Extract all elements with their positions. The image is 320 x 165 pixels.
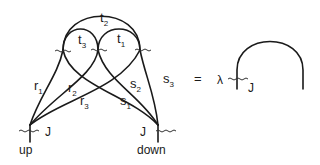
edge-s2: [98, 50, 158, 125]
diagram-canvas: t2 t3 t1 r1 r2 r3 s1 s2 s3 J J up down =…: [0, 0, 320, 165]
label-t1: t1: [117, 31, 126, 49]
node-label-up: up: [19, 143, 33, 157]
label-current-up: J: [45, 125, 51, 139]
label-s2: s2: [130, 76, 142, 94]
label-r1: r1: [34, 78, 43, 96]
label-s3: s3: [163, 71, 175, 89]
label-t2: t2: [100, 10, 109, 28]
right-diagram: λ J: [217, 42, 303, 96]
label-s1: s1: [120, 93, 132, 111]
label-current: J: [248, 81, 254, 95]
wavy-icon: [19, 130, 39, 132]
label-t3: t3: [78, 32, 87, 50]
equals-sign: =: [194, 71, 202, 86]
wavy-icon: [228, 78, 248, 80]
wavy-icon: [135, 49, 151, 51]
arc: [237, 42, 303, 90]
wavy-icon: [156, 130, 176, 132]
wavy-icon: [91, 49, 107, 51]
node-label-down: down: [137, 143, 166, 157]
left-diagram: t2 t3 t1 r1 r2 r3 s1 s2 s3 J J up down: [19, 10, 176, 157]
coefficient-lambda: λ: [217, 73, 223, 87]
edge-s1: [63, 50, 158, 125]
label-current-down: J: [140, 125, 146, 139]
